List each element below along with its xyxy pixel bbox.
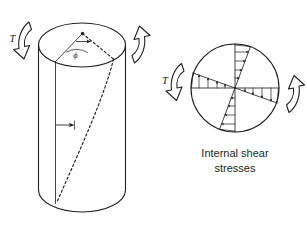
stress-profile-top	[235, 47, 251, 89]
stress-profile-bottom	[220, 88, 236, 130]
torque-label-left-cylinder: T	[10, 33, 17, 44]
cross-section-panel: T Internal shear stresses	[162, 44, 304, 174]
cylinder-panel: ϕ T	[10, 22, 150, 212]
torque-arrow-left-section	[166, 64, 184, 101]
caption-line-1: Internal shear	[201, 147, 269, 159]
twisted-helix-line	[57, 59, 114, 203]
angle-label: ϕ	[73, 50, 78, 60]
torque-arrow-left-cylinder	[14, 22, 32, 59]
cylinder-bottom-arc	[39, 190, 126, 212]
torque-arrow-right-section	[287, 76, 305, 113]
caption-line-2: stresses	[215, 162, 256, 174]
torque-label-left-section: T	[162, 75, 169, 86]
torque-arrow-right-cylinder	[132, 26, 150, 63]
cylinder-top-ellipse	[39, 23, 126, 67]
torsion-figure: ϕ T	[0, 0, 307, 227]
radius-line-original	[56, 34, 83, 62]
radius-line-twisted	[83, 34, 114, 60]
